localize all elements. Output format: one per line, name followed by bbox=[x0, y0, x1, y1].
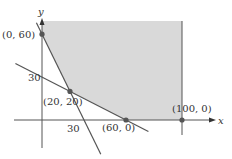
vertex-point bbox=[179, 117, 184, 122]
vertex-label: (20, 20) bbox=[43, 96, 83, 107]
vertex-label: (0, 60) bbox=[2, 29, 35, 40]
vertex-label: (100, 0) bbox=[172, 103, 212, 114]
x-tick-label-30: 30 bbox=[67, 123, 80, 134]
vertex-label: (60, 0) bbox=[102, 122, 135, 133]
feasible-region-diagram: x y (0, 60)(20, 20)(60, 0)(100, 0) 30 30 bbox=[0, 0, 232, 159]
x-axis-label: x bbox=[218, 115, 224, 126]
y-axis-label: y bbox=[37, 6, 44, 17]
x-axis-arrow-icon bbox=[209, 118, 216, 123]
vertex-point bbox=[39, 32, 44, 37]
vertex-point bbox=[67, 89, 72, 94]
y-tick-label-30: 30 bbox=[28, 72, 41, 83]
